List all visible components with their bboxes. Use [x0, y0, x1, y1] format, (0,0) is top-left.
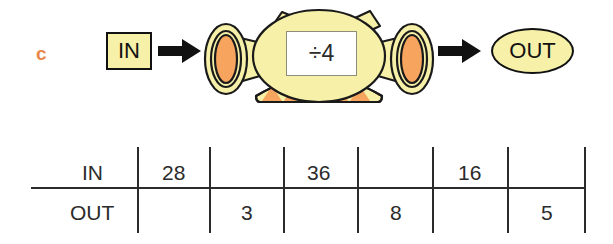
table-row-label-out: OUT [70, 202, 114, 223]
table-cell-out-2: 3 [241, 202, 253, 223]
table-cell-out-6: 5 [541, 202, 553, 223]
output-oval: OUT [491, 28, 574, 74]
table-cell-in-5: 16 [458, 162, 481, 183]
table-cell-in-1: 28 [162, 162, 185, 183]
table-cell-out-4: 8 [390, 202, 402, 223]
table-row-label-in: IN [82, 162, 103, 183]
operation-label: ÷4 [309, 40, 334, 67]
problem-letter: c [36, 44, 47, 63]
in-out-table: IN OUT 28 36 16 3 8 5 [0, 140, 613, 244]
operation-box: ÷4 [286, 31, 357, 76]
input-box-label: IN [118, 38, 140, 64]
arrow-right-icon [438, 38, 482, 64]
input-box: IN [106, 32, 152, 70]
function-machine-icon: ÷4 [196, 0, 442, 120]
table-cell-in-3: 36 [307, 162, 330, 183]
output-oval-label: OUT [509, 38, 555, 64]
